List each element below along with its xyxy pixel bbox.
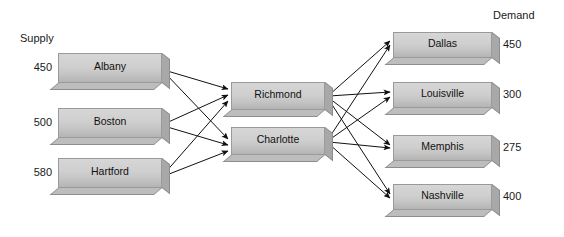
demand-node-dallas[interactable]: Dallas bbox=[393, 32, 492, 58]
node-side-face bbox=[492, 184, 500, 216]
hub-node-charlotte[interactable]: Charlotte bbox=[231, 127, 325, 155]
edge-richmond-to-dallas bbox=[329, 41, 390, 95]
supply-value-boston: 500 bbox=[18, 116, 52, 128]
supply-value-albany: 450 bbox=[18, 61, 52, 73]
node-label: Hartford bbox=[91, 165, 129, 177]
node-front-face: Hartford bbox=[58, 158, 162, 188]
node-bottom-face bbox=[385, 108, 492, 115]
node-side-face bbox=[162, 53, 170, 89]
supply-node-hartford[interactable]: Hartford bbox=[58, 158, 162, 188]
node-front-face: Richmond bbox=[231, 82, 325, 110]
node-side-face bbox=[325, 127, 333, 161]
supply-node-boston[interactable]: Boston bbox=[58, 108, 162, 138]
demand-column-header: Demand bbox=[493, 9, 535, 21]
node-label: Charlotte bbox=[257, 133, 300, 145]
node-front-face: Louisville bbox=[393, 82, 492, 108]
edge-albany-to-charlotte bbox=[164, 72, 228, 139]
node-front-face: Memphis bbox=[393, 135, 492, 161]
node-bottom-face bbox=[223, 110, 325, 117]
node-label: Memphis bbox=[421, 140, 464, 152]
supply-column-header: Supply bbox=[20, 32, 54, 44]
node-bottom-face bbox=[50, 188, 162, 195]
edge-group bbox=[164, 41, 390, 198]
node-side-face bbox=[325, 82, 333, 116]
supply-value-hartford: 580 bbox=[18, 166, 52, 178]
node-side-face bbox=[162, 158, 170, 194]
demand-node-memphis[interactable]: Memphis bbox=[393, 135, 492, 161]
demand-value-nashville: 400 bbox=[503, 190, 521, 202]
transshipment-network-diagram: Supply Demand Albany450Boston500Hartford… bbox=[0, 0, 564, 237]
node-front-face: Charlotte bbox=[231, 127, 325, 155]
edge-charlotte-to-louisville bbox=[329, 97, 390, 140]
edge-charlotte-to-memphis bbox=[329, 142, 390, 148]
node-side-face bbox=[492, 32, 500, 64]
edge-hartford-to-richmond bbox=[164, 101, 228, 174]
node-label: Nashville bbox=[421, 189, 464, 201]
edge-albany-to-richmond bbox=[164, 70, 228, 89]
node-label: Richmond bbox=[254, 88, 301, 100]
node-bottom-face bbox=[223, 155, 325, 162]
edge-richmond-to-memphis bbox=[329, 98, 390, 145]
node-bottom-face bbox=[385, 161, 492, 168]
edge-richmond-to-louisville bbox=[329, 92, 390, 96]
node-side-face bbox=[492, 135, 500, 167]
hub-node-richmond[interactable]: Richmond bbox=[231, 82, 325, 110]
demand-value-dallas: 450 bbox=[503, 38, 521, 50]
edge-boston-to-charlotte bbox=[164, 126, 228, 145]
edge-richmond-to-nashville bbox=[329, 100, 390, 194]
node-side-face bbox=[492, 82, 500, 114]
demand-node-louisville[interactable]: Louisville bbox=[393, 82, 492, 108]
demand-value-louisville: 300 bbox=[503, 88, 521, 100]
node-label: Albany bbox=[94, 60, 126, 72]
edge-charlotte-to-nashville bbox=[329, 144, 390, 198]
node-front-face: Dallas bbox=[393, 32, 492, 58]
edge-boston-to-richmond bbox=[164, 95, 228, 124]
supply-node-albany[interactable]: Albany bbox=[58, 53, 162, 83]
node-bottom-face bbox=[385, 58, 492, 65]
node-front-face: Albany bbox=[58, 53, 162, 83]
node-label: Louisville bbox=[421, 87, 464, 99]
node-bottom-face bbox=[50, 83, 162, 90]
node-bottom-face bbox=[50, 138, 162, 145]
node-front-face: Boston bbox=[58, 108, 162, 138]
node-side-face bbox=[162, 108, 170, 144]
demand-node-nashville[interactable]: Nashville bbox=[393, 184, 492, 210]
node-label: Boston bbox=[94, 115, 127, 127]
node-bottom-face bbox=[385, 210, 492, 217]
node-label: Dallas bbox=[428, 37, 457, 49]
edge-hartford-to-charlotte bbox=[164, 151, 228, 176]
edge-charlotte-to-dallas bbox=[329, 45, 390, 138]
node-front-face: Nashville bbox=[393, 184, 492, 210]
demand-value-memphis: 275 bbox=[503, 141, 521, 153]
